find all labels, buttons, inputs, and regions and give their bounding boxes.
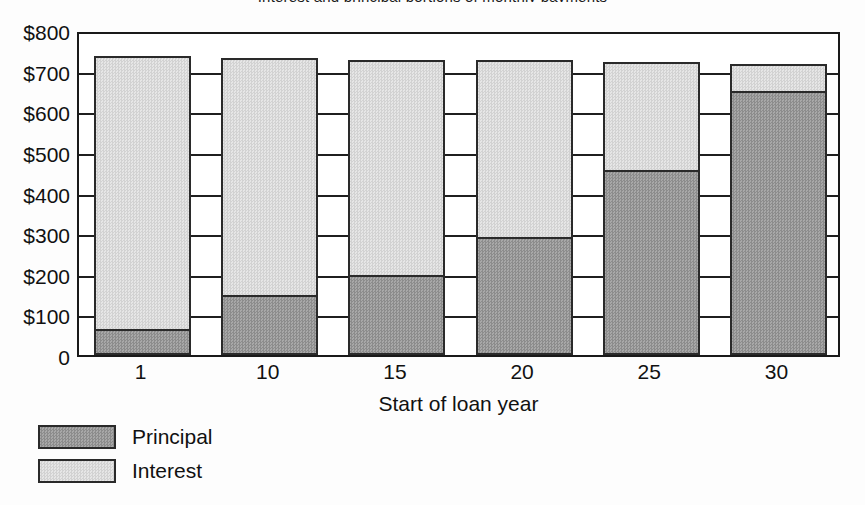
y-axis-tick-500: $500 bbox=[0, 143, 70, 164]
y-axis-tick-400: $400 bbox=[0, 184, 70, 205]
x-axis-tick-30: 30 bbox=[765, 360, 788, 383]
y-axis-tick-labels: $800$700$600$500$400$300$200$1000 bbox=[0, 32, 70, 357]
legend-swatch-principal bbox=[38, 425, 116, 449]
y-axis-tick-800: $800 bbox=[0, 22, 70, 43]
bar-segment-interest-20 bbox=[476, 60, 573, 238]
plot-area bbox=[77, 32, 840, 357]
bar-segment-interest-1 bbox=[94, 56, 191, 331]
x-axis-tick-1: 1 bbox=[135, 360, 147, 383]
legend-label-interest: Interest bbox=[132, 459, 202, 483]
legend-swatch-interest bbox=[38, 459, 116, 483]
bar-segment-principal-25 bbox=[603, 170, 700, 355]
bar-segment-interest-15 bbox=[348, 60, 445, 278]
y-axis-tick-300: $300 bbox=[0, 225, 70, 246]
chart-title: Interest and principal portions of month… bbox=[0, 0, 865, 2]
bar-segment-principal-10 bbox=[221, 295, 318, 355]
x-axis-tick-25: 25 bbox=[638, 360, 661, 383]
y-axis-tick-200: $200 bbox=[0, 265, 70, 286]
y-axis-tick-600: $600 bbox=[0, 103, 70, 124]
legend-item-interest[interactable]: Interest bbox=[38, 454, 213, 488]
bar-segment-principal-1 bbox=[94, 329, 191, 355]
bar-year-20 bbox=[476, 60, 573, 355]
x-axis-tick-15: 15 bbox=[383, 360, 406, 383]
y-axis-tick-100: $100 bbox=[0, 306, 70, 327]
bar-year-15 bbox=[348, 60, 445, 355]
legend-item-principal[interactable]: Principal bbox=[38, 420, 213, 454]
x-axis-title: Start of loan year bbox=[77, 392, 840, 416]
bar-segment-interest-10 bbox=[221, 58, 318, 297]
x-axis-tick-10: 10 bbox=[256, 360, 279, 383]
y-axis-tick-700: $700 bbox=[0, 62, 70, 83]
bar-segment-principal-30 bbox=[730, 91, 827, 355]
y-axis-tick-0: 0 bbox=[0, 347, 70, 368]
x-axis-tick-labels: 11015202530 bbox=[77, 360, 840, 390]
legend-label-principal: Principal bbox=[132, 425, 213, 449]
chart-legend: PrincipalInterest bbox=[38, 420, 213, 488]
bar-year-25 bbox=[603, 62, 700, 355]
chart-figure: Interest and principal portions of month… bbox=[0, 0, 865, 505]
bar-year-1 bbox=[94, 56, 191, 355]
x-axis-tick-20: 20 bbox=[510, 360, 533, 383]
bar-segment-interest-30 bbox=[730, 64, 827, 93]
bar-year-10 bbox=[221, 58, 318, 355]
bar-year-30 bbox=[730, 64, 827, 355]
bar-segment-principal-20 bbox=[476, 237, 573, 355]
bar-series-group bbox=[79, 34, 838, 355]
bar-segment-interest-25 bbox=[603, 62, 700, 172]
bar-segment-principal-15 bbox=[348, 275, 445, 355]
